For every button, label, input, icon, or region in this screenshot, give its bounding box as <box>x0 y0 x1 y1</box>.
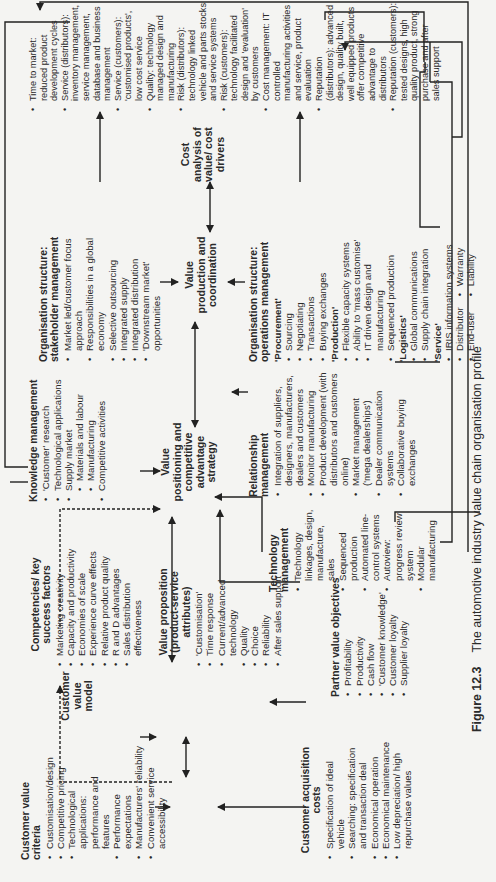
list-item: Customisation/design <box>44 745 55 860</box>
list-item: Risk (distributors): technology linked v… <box>176 2 218 112</box>
relationship-management-title: Relationship management <box>248 369 271 497</box>
list-item: Transactions <box>305 202 316 362</box>
list-item: Service (distributors): inventory manage… <box>60 2 113 112</box>
list-item: Distributor <box>454 307 465 362</box>
list-item: Current/advanced technology <box>216 557 238 667</box>
customer-acquisition-costs: Customer acquisition costs Specification… <box>300 740 413 860</box>
list-item: Reputation (distributors): advanced desi… <box>314 2 388 112</box>
list-item: Ability to 'mass customise' <box>351 202 362 362</box>
list-item: Relative product quality <box>99 542 110 667</box>
list-item: Economical operation <box>369 740 380 860</box>
list-item: Materials and labour <box>74 377 85 502</box>
list-item: Searching: specification and transaction… <box>346 740 368 860</box>
technology-management: Technology management Technology linkage… <box>268 504 437 592</box>
list-item: Convenient service accessibility <box>145 745 167 860</box>
section-heading: 'Logistics' <box>397 202 408 362</box>
list-item: Time to market: reduced product developm… <box>28 2 60 112</box>
list-item: Global communications <box>408 202 419 362</box>
list-item: Sourcing <box>283 202 294 362</box>
list-item: Economical maintenance <box>380 740 391 860</box>
knowledge-management-title: Knowledge management <box>28 377 39 502</box>
list-item: Reputation (customers): tested designs, … <box>388 2 441 112</box>
list-item: Integrated supply <box>118 212 129 362</box>
list-item: Selective outsourcing <box>107 212 118 362</box>
stakeholder-management: Organisation structure: stakeholder mana… <box>38 212 163 362</box>
competencies-title: Competencies/ key success factors <box>30 542 53 667</box>
diagram-canvas: Customer value criteria Customisation/de… <box>0 0 496 882</box>
list-item: Warranty <box>454 248 465 298</box>
list-item: Sequenced production <box>337 504 359 592</box>
value-proposition-title: Value proposition (product-service attri… <box>158 557 192 667</box>
list-item: Collaborative buying exchanges <box>395 369 417 497</box>
section-heading: 'Production' <box>329 202 340 362</box>
list-item: Marketing creativity <box>54 542 65 667</box>
list-item: Risk (customers): technology facilitated… <box>219 2 261 112</box>
list-item: 'Downstream market' opportunities <box>140 212 162 362</box>
value-positioning-node: Value positioning and competitive advant… <box>160 422 218 502</box>
list-item: Negotiating <box>294 202 305 362</box>
technology-management-title: Technology management <box>268 504 291 592</box>
list-item: Technological applications <box>52 377 63 502</box>
competencies-key-success-factors: Competencies/ key success factors Market… <box>30 542 143 667</box>
figure-number: Figure 12.3 <box>470 667 484 732</box>
operations-management: Organisation structure: operations manag… <box>248 202 476 362</box>
list-item: Dealer communication systems <box>373 369 395 497</box>
list-item: Manufacturing <box>85 377 96 502</box>
list-item: Sales distribution effectiveness <box>121 542 143 667</box>
list-item: Modular manufacturing <box>415 504 437 592</box>
list-item: 'Customisation' <box>193 557 204 667</box>
customer-value-model-node: Customer value model <box>60 670 95 722</box>
customer-acquisition-costs-title: Customer acquisition costs <box>300 740 323 860</box>
outcomes-list: Time to market: reduced product developm… <box>28 2 441 112</box>
list-item: Market led/customer focus approach <box>62 212 84 362</box>
stakeholder-management-title: Organisation structure: stakeholder mana… <box>38 212 61 362</box>
customer-value-criteria-title: Customer value criteria <box>20 745 43 860</box>
list-item: Capacity and productivity <box>65 542 76 667</box>
list-item: Manufacturers' reliability <box>133 745 144 860</box>
figure-caption: Figure 12.3The automotive industry value… <box>470 346 484 732</box>
list-item: Sequenced production <box>385 202 396 362</box>
list-item: Monitor manufacturing <box>305 369 316 497</box>
list-item: Liability <box>465 248 476 298</box>
list-item: IT driven design and manufacturing <box>362 202 384 362</box>
list-item: Flexible capacity systems <box>340 202 351 362</box>
list-item: Product development (with distributors a… <box>317 369 351 497</box>
value-proposition: Value proposition (product-service attri… <box>158 557 283 667</box>
list-item: Supply chain integration <box>419 202 430 362</box>
list-item: Competitive pricing <box>55 745 66 860</box>
list-item: 'Customer' research <box>40 377 51 502</box>
section-heading: 'Procurement' <box>272 202 283 362</box>
list-item: Choice <box>249 557 260 667</box>
list-item: IRIS information systems <box>443 202 454 362</box>
list-item: Competitive activities <box>96 377 107 502</box>
list-item: Cost management: IT controlled manufactu… <box>261 2 314 112</box>
list-item: Technology linkages, design, manufacture… <box>292 504 337 592</box>
list-item: Market management ('mega dealerships') <box>350 369 372 497</box>
list-item: Low depreciation/ high repurchase values <box>391 740 413 860</box>
cost-analysis-node: Cost analysis of value/ cost drivers <box>180 127 226 182</box>
operations-management-title: Organisation structure: operations manag… <box>248 202 271 362</box>
customer-value-criteria: Customer value criteria Customisation/de… <box>20 745 167 860</box>
list-item: Quality <box>238 557 249 667</box>
list-item: Specification of ideal vehicle <box>324 740 346 860</box>
list-item: Time response <box>204 557 215 667</box>
list-item: Automated line-control systems <box>359 504 381 592</box>
list-item: Experience curve effects <box>87 542 98 667</box>
list-item: Buying exchanges <box>317 202 328 362</box>
relationship-management: Relationship management Integration of s… <box>248 369 417 497</box>
figure-caption-text: The automotive industry value chain orga… <box>470 346 484 653</box>
section-heading: 'Service' <box>432 202 443 362</box>
list-item: Performance expectations <box>111 745 133 860</box>
list-item: Supply market <box>63 377 74 502</box>
list-item: Responsibilities in a global economy <box>84 212 106 362</box>
list-item: Integration of suppliers, designers, man… <box>272 369 306 497</box>
list-item: Quality: technology managed design and m… <box>145 2 177 112</box>
list-item: Integrated distribution <box>129 212 140 362</box>
list-item: Economies of scale <box>76 542 87 667</box>
value-production-node: Value production and coordination <box>184 233 219 317</box>
knowledge-management: Knowledge management 'Customer' research… <box>28 377 108 502</box>
list-item: R and D advantages <box>110 542 121 667</box>
list-item: Technological applications: performance … <box>66 745 111 860</box>
list-item: Service (customers): 'customised product… <box>113 2 145 112</box>
list-item: Autoview: progress review system <box>381 504 415 592</box>
